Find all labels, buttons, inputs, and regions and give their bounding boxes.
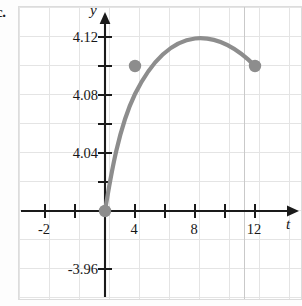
x-tick-label-4: 4 [118, 221, 150, 238]
y-tick-label-408: 4.08 [38, 87, 98, 104]
x-tick-label-12: 12 [238, 221, 270, 238]
data-point-t12 [249, 60, 261, 72]
y-tick-label-412: 4.12 [38, 29, 98, 46]
x-tick-label-8: 8 [178, 221, 210, 238]
y-tick-label-404: 4.04 [38, 145, 98, 162]
x-tick-label-minus2: -2 [28, 221, 60, 238]
y-tick-label-minus396: -3.96 [30, 261, 98, 278]
figure-root: c. [0, 0, 302, 306]
y-axis-label: y [90, 2, 97, 19]
x-axis-label: t [286, 216, 290, 233]
data-point-origin [99, 205, 111, 217]
data-point-t4 [129, 60, 141, 72]
part-label: c. [0, 4, 5, 21]
